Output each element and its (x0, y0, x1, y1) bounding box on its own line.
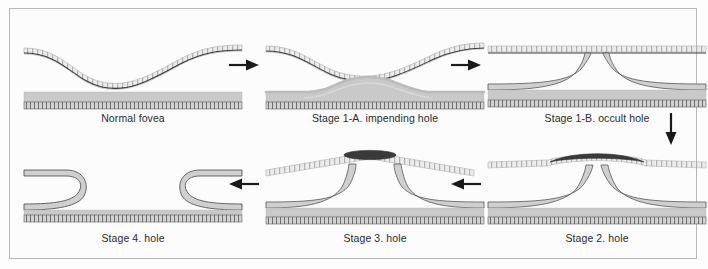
panel-stage-3: Stage 3. hole (264, 140, 486, 260)
panel-caption: Normal fovea (22, 112, 244, 124)
arrow-2-to-3 (450, 177, 482, 191)
panel-caption: Stage 4. hole (22, 232, 244, 244)
normal-fovea-illustration (22, 20, 244, 116)
left-retina-flank (488, 53, 591, 90)
choroid-hatched-strip (488, 100, 706, 107)
choroid-hatched-strip (266, 217, 484, 224)
left-retina-flank (488, 165, 593, 208)
panel-stage-2: Stage 2. hole (486, 140, 708, 260)
panel-caption: Stage 1-A. impending hole (264, 112, 486, 124)
right-retina-flank (603, 53, 706, 90)
outer-retina-band (488, 90, 706, 100)
choroid-hatched-strip (24, 215, 242, 222)
right-retina-flank (601, 165, 706, 208)
panel-caption: Stage 2. hole (486, 232, 708, 244)
outer-retina-band (24, 210, 242, 215)
choroid-hatched-strip (24, 102, 242, 109)
operculum (344, 150, 396, 159)
macular-hole-stages-figure: Normal fovea Sta (0, 0, 708, 269)
panel-stage-4: Stage 4. hole (22, 140, 244, 260)
panel-caption: Stage 3. hole (264, 232, 486, 244)
choroid-hatched-strip (488, 217, 706, 224)
choroid-hatched-strip (266, 102, 484, 109)
arrow-1a-to-1b (450, 58, 482, 72)
stage-2-illustration (486, 140, 708, 236)
left-retina-flank (24, 170, 86, 210)
stage-4-illustration (22, 140, 244, 236)
posterior-hyaloid-band (488, 46, 706, 52)
arrow-3-to-4 (228, 177, 260, 191)
outer-retina-band (24, 92, 242, 102)
posterior-hyaloid-band (24, 45, 242, 89)
outer-retina-band (266, 208, 484, 217)
outer-retina-band-elevated (266, 77, 484, 102)
panel-normal-fovea: Normal fovea (22, 20, 244, 140)
outer-retina-band (488, 208, 706, 217)
panel-stage-1a: Stage 1-A. impending hole (264, 20, 486, 140)
stage-1b-illustration (486, 20, 708, 116)
arrow-normal-to-1a (228, 58, 260, 72)
arrow-1b-to-2 (664, 112, 678, 146)
